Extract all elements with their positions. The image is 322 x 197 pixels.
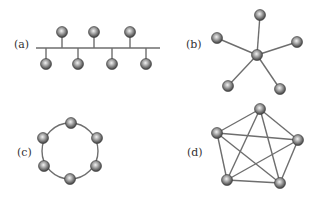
star-spoke-line <box>228 55 257 86</box>
mesh-link-line <box>260 109 298 140</box>
mesh-node-icon <box>212 128 223 139</box>
ring-node-icon <box>91 161 102 172</box>
mesh-link-line <box>217 109 260 133</box>
star-spoke-line <box>257 15 260 55</box>
ring-node-icon <box>39 161 50 172</box>
star-spoke-line <box>217 38 257 55</box>
mesh-link-line <box>280 140 298 183</box>
bus-edges <box>36 32 160 64</box>
star-leaf-node-icon <box>255 10 266 21</box>
mesh-nodes <box>212 104 304 189</box>
bus-node-icon <box>125 27 136 38</box>
star-spoke-line <box>257 55 280 89</box>
bus-node-icon <box>73 59 84 70</box>
ring-node-icon <box>38 133 49 144</box>
ring-edges <box>42 123 98 179</box>
bus-node-icon <box>89 27 100 38</box>
bus-node-icon <box>57 27 68 38</box>
mesh-node-icon <box>293 135 304 146</box>
star-leaf-node-icon <box>292 37 303 48</box>
bus-node-icon <box>41 59 52 70</box>
star-leaf-node-icon <box>223 81 234 92</box>
mesh-edges <box>217 109 298 183</box>
panel-a-bus-topology: (a) <box>14 27 160 70</box>
star-hub-node-icon <box>252 50 263 61</box>
panel-c-ring-topology: (c) <box>17 118 103 185</box>
ring-node-icon <box>65 174 76 185</box>
panel-d-mesh-topology: (d) <box>187 104 304 189</box>
ring-nodes <box>38 118 103 185</box>
mesh-link-line <box>227 140 298 180</box>
star-leaf-node-icon <box>212 33 223 44</box>
mesh-node-icon <box>255 104 266 115</box>
star-spoke-line <box>257 42 297 55</box>
ring-node-icon <box>66 118 77 129</box>
panel-b-star-topology: (b) <box>186 10 303 95</box>
panel-c-label: (c) <box>17 146 32 159</box>
mesh-node-icon <box>275 178 286 189</box>
ring-node-icon <box>92 133 103 144</box>
star-leaf-node-icon <box>275 84 286 95</box>
panel-d-label: (d) <box>187 146 203 159</box>
ring-line <box>42 123 98 179</box>
bus-node-icon <box>141 59 152 70</box>
star-nodes <box>212 10 303 95</box>
mesh-link-line <box>217 133 298 140</box>
panel-b-label: (b) <box>186 38 202 51</box>
mesh-link-line <box>227 180 280 183</box>
network-topologies-diagram: (a) (b) (c) (d) <box>0 0 322 197</box>
mesh-link-line <box>260 109 280 183</box>
panel-a-label: (a) <box>14 38 29 51</box>
bus-node-icon <box>107 59 118 70</box>
mesh-node-icon <box>222 175 233 186</box>
